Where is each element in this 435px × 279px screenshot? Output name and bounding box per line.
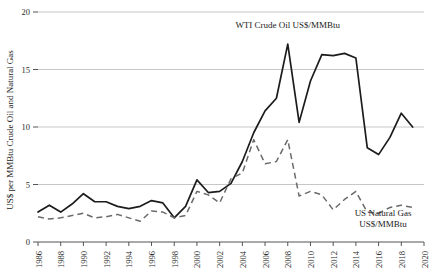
x-tick-label-2000: 2000 xyxy=(192,251,202,268)
y-axis-title: US$ per MMBtu Crude Oil and Natural Gas xyxy=(5,50,15,210)
x-axis-tick-labels: 1986198819901992199419961998200020022004… xyxy=(34,242,430,268)
x-tick-label-2010: 2010 xyxy=(306,251,316,268)
x-tick-label-1994: 1994 xyxy=(124,250,134,268)
x-tick-label-1996: 1996 xyxy=(147,251,157,268)
gas-label-line1: US Natural Gas xyxy=(355,208,412,218)
chart-canvas: 05101520 1986198819901992199419961998200… xyxy=(0,0,435,279)
x-tick-label-2006: 2006 xyxy=(261,251,271,268)
oil-label: WTI Crude Oil US$/MMBtu xyxy=(235,20,340,30)
y-tick-label-10: 10 xyxy=(22,122,31,132)
y-tick-label-0: 0 xyxy=(26,237,30,247)
x-tick-label-1986: 1986 xyxy=(34,251,44,268)
x-tick-label-2014: 2014 xyxy=(351,250,361,268)
x-tick-label-2008: 2008 xyxy=(283,251,293,268)
x-tick-label-2012: 2012 xyxy=(329,251,339,268)
x-tick-label-2020: 2020 xyxy=(420,251,430,268)
x-tick-label-1990: 1990 xyxy=(79,251,89,268)
x-tick-label-1992: 1992 xyxy=(102,251,112,268)
oil-gas-price-chart: 05101520 1986198819901992199419961998200… xyxy=(0,0,435,279)
gas-label-line2: US$/MMBtu xyxy=(359,219,407,229)
data-series xyxy=(38,44,413,221)
y-tick-label-5: 5 xyxy=(26,180,30,190)
x-tick-label-1998: 1998 xyxy=(170,251,180,268)
y-tick-label-20: 20 xyxy=(22,7,31,17)
y-tick-label-15: 15 xyxy=(22,65,31,75)
x-tick-label-2002: 2002 xyxy=(215,251,225,268)
x-tick-label-1988: 1988 xyxy=(56,251,66,268)
y-axis-tick-labels: 05101520 xyxy=(22,7,31,247)
x-tick-label-2018: 2018 xyxy=(397,251,407,268)
x-tick-label-2004: 2004 xyxy=(238,250,248,268)
x-tick-label-2016: 2016 xyxy=(374,251,384,268)
